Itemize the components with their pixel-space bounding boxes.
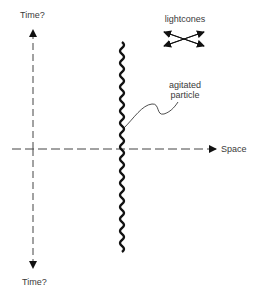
particle-label-line2: particle — [164, 90, 206, 100]
time-down-label: Time? — [22, 277, 47, 287]
lightcones-icon — [164, 32, 204, 46]
particle-worldline — [120, 42, 124, 252]
annotation-leader — [124, 102, 178, 128]
particle-label-line1: agitated — [164, 80, 206, 90]
lightcones-label: lightcones — [164, 14, 206, 24]
space-label: Space — [221, 144, 247, 154]
spacetime-diagram — [0, 0, 257, 293]
time-up-label: Time? — [20, 10, 45, 20]
